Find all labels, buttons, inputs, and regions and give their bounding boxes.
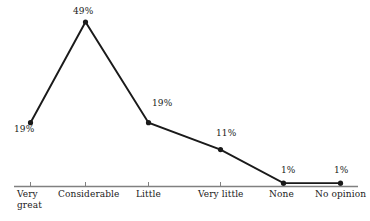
axis-label-very-great-line1: Very: [17, 189, 38, 199]
line-chart: 19% 49% 19% 11% 1% 1% Very great Conside…: [0, 0, 370, 221]
data-point-markers: [28, 19, 343, 185]
axis-label-none: None: [269, 189, 294, 200]
data-point-no-opinion: [338, 181, 343, 186]
value-label-no-opinion: 1%: [334, 165, 348, 175]
data-line-series: [31, 22, 341, 183]
axis-label-considerable: Considerable: [58, 189, 120, 200]
axis-label-very-great-line2: great: [17, 200, 42, 211]
data-point-considerable: [83, 19, 88, 24]
value-label-little: 19%: [152, 98, 172, 108]
chart-plot-area: [0, 0, 370, 221]
data-point-very-little: [218, 147, 223, 152]
data-point-none: [281, 181, 286, 186]
axis-label-very-little: Very little: [198, 189, 244, 200]
axis-label-little: Little: [136, 189, 161, 200]
value-label-none: 1%: [281, 165, 295, 175]
value-label-very-little: 11%: [216, 128, 236, 138]
axis-label-very-great: Very great: [17, 189, 42, 211]
value-label-very-great: 19%: [14, 124, 34, 134]
value-label-considerable: 49%: [73, 6, 93, 16]
data-point-little: [146, 120, 151, 125]
axis-label-no-opinion: No opinion: [315, 189, 366, 200]
